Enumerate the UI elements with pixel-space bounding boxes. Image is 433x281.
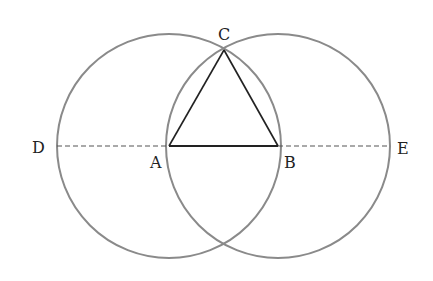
construction-diagram: C D A B E [0, 0, 433, 281]
label-E: E [397, 139, 409, 158]
label-D: D [32, 138, 45, 157]
label-B: B [284, 153, 296, 172]
label-C: C [218, 25, 230, 44]
label-A: A [149, 153, 162, 172]
